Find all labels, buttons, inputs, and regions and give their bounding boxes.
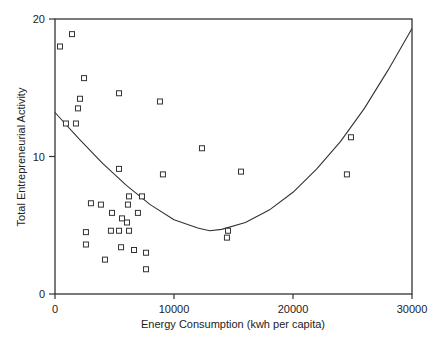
y-tick-label: 0 xyxy=(39,288,45,300)
data-point-square xyxy=(70,32,75,37)
data-point-square xyxy=(82,76,87,81)
data-point-square xyxy=(132,248,137,253)
y-tick-label: 10 xyxy=(33,151,45,163)
data-point-square xyxy=(157,99,162,104)
data-point-square xyxy=(119,216,124,221)
data-point-square xyxy=(125,202,130,207)
plot-frame xyxy=(55,19,412,294)
data-point-square xyxy=(124,220,129,225)
data-points xyxy=(57,32,353,272)
fit-curve xyxy=(55,29,412,231)
x-axis-ticks: 0100002000030000 xyxy=(52,294,427,315)
data-point-square xyxy=(88,201,93,206)
data-point-square xyxy=(199,146,204,151)
y-axis-ticks: 01020 xyxy=(33,13,55,300)
data-point-square xyxy=(144,250,149,255)
data-point-square xyxy=(226,228,231,233)
x-tick-label: 20000 xyxy=(278,303,309,315)
data-point-square xyxy=(135,210,140,215)
data-point-square xyxy=(224,235,229,240)
data-point-square xyxy=(117,228,122,233)
data-point-square xyxy=(110,210,115,215)
data-point-square xyxy=(77,96,82,101)
data-point-square xyxy=(98,202,103,207)
data-point-square xyxy=(119,245,124,250)
data-point-square xyxy=(127,228,132,233)
data-point-square xyxy=(73,121,78,126)
y-tick-label: 20 xyxy=(33,13,45,25)
x-tick-label: 10000 xyxy=(159,303,190,315)
x-tick-label: 30000 xyxy=(397,303,428,315)
y-axis-title: Total Entrepreneurial Activity xyxy=(15,87,27,226)
data-point-square xyxy=(144,267,149,272)
data-point-square xyxy=(139,194,144,199)
data-point-square xyxy=(344,172,349,177)
data-point-square xyxy=(117,91,122,96)
data-point-square xyxy=(75,106,80,111)
data-point-square xyxy=(117,166,122,171)
data-point-square xyxy=(83,230,88,235)
data-point-square xyxy=(83,242,88,247)
x-tick-label: 0 xyxy=(52,303,58,315)
data-point-square xyxy=(108,228,113,233)
data-point-square xyxy=(102,257,107,262)
data-point-square xyxy=(160,172,165,177)
x-axis-title: Energy Consumption (kwh per capita) xyxy=(141,318,325,330)
data-point-square xyxy=(348,135,353,140)
data-point-square xyxy=(238,169,243,174)
data-point-square xyxy=(57,44,62,49)
data-point-square xyxy=(127,194,132,199)
scatter-chart: 0100002000030000 01020 Energy Consumptio… xyxy=(0,0,440,340)
data-point-square xyxy=(63,121,68,126)
